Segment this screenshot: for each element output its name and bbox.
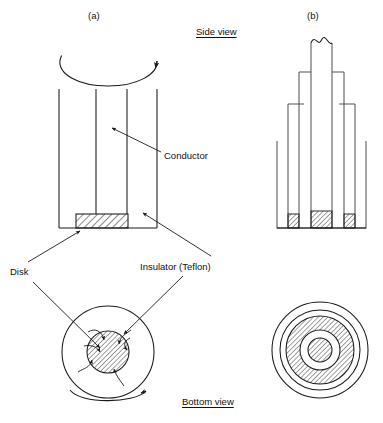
rotation-arrow-bottom-icon — [70, 390, 146, 401]
figure-canvas — [0, 0, 383, 423]
insulator-block-a — [76, 214, 128, 228]
disk-bottom-leader-line — [33, 282, 100, 348]
insulator-inner-circle — [87, 331, 129, 373]
panel-b-bottom-view — [272, 302, 368, 398]
conductor-leader-line — [112, 128, 161, 152]
conductor-label: Conductor — [164, 150, 208, 161]
rotation-arrow-side-icon — [60, 56, 157, 87]
conductor-rods — [96, 89, 127, 214]
panel-label-b: (b) — [307, 10, 319, 21]
panel-a-bottom-view — [33, 276, 183, 401]
bottom-view-heading: Bottom view — [182, 396, 234, 407]
disk-leader-line — [28, 231, 80, 262]
insulator-leader-line — [143, 213, 211, 256]
insulator-label: Insulator (Teflon) — [140, 261, 211, 272]
insulator-bottom-leader-line — [124, 276, 183, 334]
disk-body-outline — [59, 89, 157, 228]
side-view-heading: Side view — [196, 26, 237, 37]
panel-label-a: (a) — [88, 10, 100, 21]
step-shell-second — [288, 104, 355, 228]
center-rod-b — [311, 37, 332, 228]
insulator-blocks-b — [288, 211, 355, 228]
step-shell-third — [299, 72, 344, 228]
panel-b-side-view — [277, 37, 366, 228]
disk-label: Disk — [10, 266, 28, 277]
core-circle-b — [308, 338, 332, 362]
